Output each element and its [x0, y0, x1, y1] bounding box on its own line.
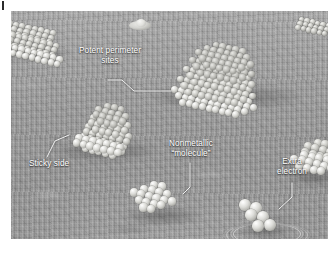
cluster-distant-blob [129, 19, 151, 31]
atom-sphere [123, 138, 130, 145]
atom-sphere [223, 66, 230, 73]
atom-sphere [230, 77, 237, 84]
callout-extra-electron: Extra electron [259, 157, 325, 177]
atom-sphere [240, 96, 247, 103]
atom-sphere [241, 108, 248, 115]
atom-sphere [327, 164, 328, 172]
atom-sphere [311, 28, 316, 33]
atom-sphere [250, 104, 257, 111]
atom-sphere [199, 55, 206, 62]
cluster-large-hexagonal [150, 29, 306, 115]
callout-sticky-side: Sticky side [29, 159, 69, 169]
atom-sphere [112, 131, 119, 138]
callout-nonmetallic-molecule-line1: Nonmetallic [152, 139, 230, 149]
callout-potent-perimeter-sites-line1: Potent perimeter [60, 46, 160, 56]
callout-extra-electron-line2: electron [259, 167, 325, 177]
callout-nonmetallic-molecule: Nonmetallic “molecule” [152, 139, 230, 159]
atom-sphere [247, 61, 254, 68]
atom-sphere [203, 62, 210, 69]
callout-potent-perimeter-sites: Potent perimeter sites [60, 46, 160, 66]
atom-sphere [211, 83, 218, 90]
atom-sphere [119, 118, 126, 125]
figure-root: Potent perimeter sites Sticky side Nonme… [0, 0, 335, 265]
atom-sphere [181, 82, 188, 89]
callout-sticky-side-line1: Sticky side [29, 159, 69, 169]
atom-sphere [187, 72, 194, 79]
atom-sphere [168, 197, 176, 205]
atom-sphere [92, 126, 99, 133]
atom-sphere [199, 103, 206, 110]
atom-sphere [238, 64, 245, 71]
atom-sphere [41, 58, 48, 65]
atom-sphere [217, 74, 224, 81]
callout-nonmetallic-molecule-line2: “molecule” [152, 149, 230, 159]
atom-sphere [239, 74, 246, 81]
corner-tick-mark [2, 1, 4, 10]
atom-sphere [264, 219, 276, 231]
atom-sphere [231, 88, 238, 95]
cluster-extra-electron [229, 193, 309, 239]
atom-sphere [322, 31, 327, 36]
callout-extra-electron-line1: Extra [259, 157, 325, 167]
nanocluster-illustration: Potent perimeter sites Sticky side Nonme… [11, 11, 328, 239]
atom-sphere [205, 93, 212, 100]
atom-sphere [224, 86, 231, 93]
cluster-stepped-left [53, 89, 159, 167]
atom-sphere [97, 118, 104, 125]
atom-sphere [252, 220, 264, 232]
atom-sphere [212, 106, 219, 113]
atom-sphere [245, 209, 257, 221]
cluster-nonmetallic [119, 173, 205, 231]
atom-sphere [193, 63, 200, 70]
atom-sphere [248, 71, 255, 78]
atom-sphere [197, 70, 204, 77]
callout-potent-perimeter-sites-line2: sites [60, 56, 160, 66]
atom-sphere [232, 111, 239, 118]
